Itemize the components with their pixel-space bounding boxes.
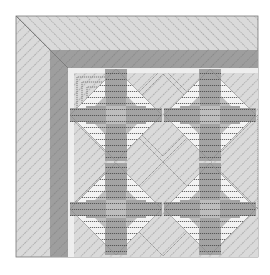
block-field <box>68 68 258 258</box>
quilt-illustration <box>0 0 270 275</box>
